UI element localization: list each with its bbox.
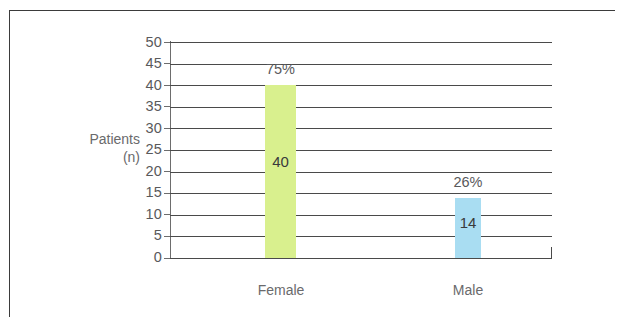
y-tick-label-45: 45 [136,55,162,71]
bar-male-percent-label: 26% [453,174,482,190]
y-axis-title-line-2: (n) [56,148,140,166]
gridline-45 [170,64,552,65]
gridline-25 [170,150,552,151]
y-tick-label-0: 0 [136,249,162,265]
y-tick-label-20: 20 [136,163,162,179]
y-tick-label-50: 50 [136,34,162,50]
x-category-label-female: Female [258,282,305,298]
gridline-5 [170,236,552,237]
y-tick-label-25: 25 [136,141,162,157]
y-axis-title: Patients (n) [56,130,140,166]
gridline-0-baseline [170,258,552,259]
gridline-35 [170,107,552,108]
y-axis-title-line-1: Patients [56,130,140,148]
bar-male-value-label: 14 [460,214,477,231]
y-tick-label-35: 35 [136,98,162,114]
page-frame-top-rule [9,10,615,11]
bar-female-value-label: 40 [272,153,289,170]
gridline-50 [170,42,552,43]
y-tick-label-40: 40 [136,77,162,93]
gridline-40 [170,85,552,86]
y-tick-label-5: 5 [136,227,162,243]
page-frame-left-rule [9,10,10,317]
x-category-label-male: Male [453,282,483,298]
chart-figure: Patients (n) 50 45 40 35 30 25 20 15 10 … [0,0,620,324]
bar-female[interactable]: 75% 40 [265,85,296,258]
y-tick-label-15: 15 [136,184,162,200]
bar-male[interactable]: 26% 14 [455,198,481,259]
gridline-20 [170,172,552,173]
gridline-30 [170,128,552,129]
gridline-15 [170,193,552,194]
y-tick-label-30: 30 [136,120,162,136]
plot-right-edge-cap [551,247,552,259]
gridline-10 [170,215,552,216]
y-tick-label-10: 10 [136,206,162,222]
bar-female-percent-label: 75% [266,61,295,77]
plot-area: 75% 40 26% 14 [170,42,552,258]
